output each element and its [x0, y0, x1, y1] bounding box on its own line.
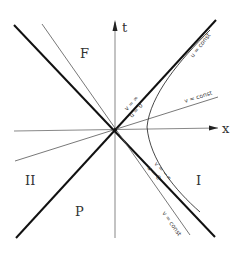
region-past-label: P: [75, 204, 84, 219]
x-axis-label: x: [222, 121, 230, 136]
rindler-diagram: t x F P I II u = const v = const v = con…: [0, 0, 243, 253]
v-const-upper-annotation: v = const: [183, 89, 213, 104]
t-axis-arrow-icon: [113, 20, 118, 31]
region-right-label: I: [196, 173, 201, 188]
origin-point: [113, 128, 117, 132]
x-axis-arrow-icon: [209, 126, 218, 131]
region-left-label: II: [25, 173, 35, 188]
u-const-annotation: u = const: [188, 31, 212, 59]
v-const-lower-annotation: v = const: [161, 210, 184, 238]
t-axis-label: t: [122, 20, 128, 35]
region-future-label: F: [80, 46, 89, 61]
